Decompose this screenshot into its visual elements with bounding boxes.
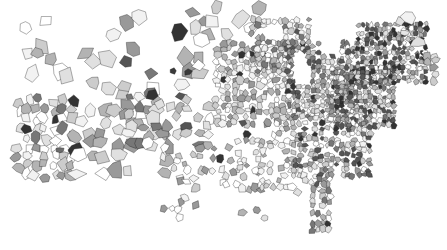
county-polygon[interactable] xyxy=(249,81,255,89)
county-polygon[interactable] xyxy=(261,94,267,100)
county-polygon[interactable] xyxy=(256,109,262,114)
county-polygon[interactable] xyxy=(321,100,325,104)
us-county-choropleth-map[interactable] xyxy=(0,0,447,250)
county-polygon[interactable] xyxy=(302,121,308,125)
county-polygon[interactable] xyxy=(327,199,331,204)
county-polygon[interactable] xyxy=(206,15,219,27)
county-polygon[interactable] xyxy=(368,91,371,94)
county-polygon[interactable] xyxy=(296,84,301,88)
county-polygon[interactable] xyxy=(331,156,335,162)
county-polygon[interactable] xyxy=(239,58,243,63)
county-polygon[interactable] xyxy=(266,19,270,25)
county-polygon[interactable] xyxy=(313,116,318,121)
county-polygon[interactable] xyxy=(316,227,320,232)
county-polygon[interactable] xyxy=(311,185,316,193)
county-polygon[interactable] xyxy=(256,156,261,162)
county-polygon[interactable] xyxy=(365,42,369,47)
county-polygon[interactable] xyxy=(317,176,322,182)
county-polygon[interactable] xyxy=(365,71,370,75)
county-polygon[interactable] xyxy=(278,165,284,172)
county-polygon[interactable] xyxy=(366,56,370,60)
county-polygon[interactable] xyxy=(361,121,366,125)
county-polygon[interactable] xyxy=(123,166,131,176)
county-polygon[interactable] xyxy=(373,96,378,100)
county-polygon[interactable] xyxy=(220,47,227,52)
county-polygon[interactable] xyxy=(271,39,276,45)
county-polygon[interactable] xyxy=(329,104,335,109)
county-polygon[interactable] xyxy=(366,136,372,140)
county-polygon[interactable] xyxy=(380,32,383,36)
county-polygon[interactable] xyxy=(329,162,334,167)
county-polygon[interactable] xyxy=(215,83,220,87)
choropleth-figure xyxy=(0,0,447,250)
county-polygon[interactable] xyxy=(374,22,379,27)
county-polygon[interactable] xyxy=(319,132,323,136)
county-polygon[interactable] xyxy=(238,102,244,108)
county-polygon[interactable] xyxy=(346,123,351,127)
county-polygon[interactable] xyxy=(239,42,245,49)
county-polygon[interactable] xyxy=(237,164,243,170)
county-polygon[interactable] xyxy=(368,94,373,100)
county-polygon[interactable] xyxy=(136,112,147,119)
county-polygon[interactable] xyxy=(40,17,52,26)
